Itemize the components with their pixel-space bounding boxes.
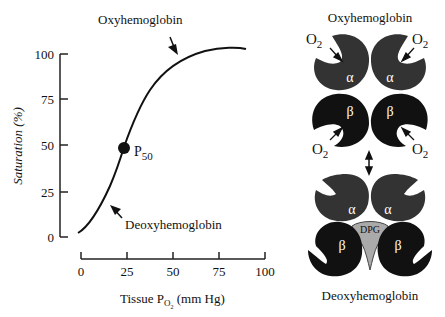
x-tick-label: 50 xyxy=(167,264,180,279)
oxygen-dissociation-chart: 100 75 50 25 0 Saturation (%) 0 25 50 75… xyxy=(10,12,275,310)
alpha-label: α xyxy=(348,202,356,217)
y-tick-label: 50 xyxy=(41,138,54,153)
alpha-label: α xyxy=(346,70,354,85)
deoxyhemoglobin-curve-label: Deoxyhemoglobin xyxy=(125,217,222,232)
y-tick-label: 75 xyxy=(41,92,54,107)
o2-label: O2 xyxy=(306,31,322,50)
beta-label: β xyxy=(338,238,345,253)
p50-label: P50 xyxy=(134,144,153,162)
oxy-beta-left-subunit xyxy=(312,94,369,147)
arrow-up-left-icon xyxy=(110,205,122,218)
beta-label: β xyxy=(346,104,353,119)
y-tick-label: 25 xyxy=(41,185,54,200)
x-tick-label: 25 xyxy=(121,264,134,279)
o2-label: O2 xyxy=(412,141,428,160)
saturation-curve xyxy=(78,48,246,233)
p50-marker xyxy=(118,142,130,154)
x-tick-label: 75 xyxy=(213,264,226,279)
o2-label: O2 xyxy=(312,141,328,160)
arrow-down-icon xyxy=(168,37,178,55)
y-ticks xyxy=(60,54,68,237)
beta-label: β xyxy=(386,104,393,119)
beta-label: β xyxy=(394,238,401,253)
oxyhemoglobin-title: Oxyhemoglobin xyxy=(328,10,413,25)
x-tick-label: 100 xyxy=(255,264,275,279)
oxy-beta-right-subunit xyxy=(371,94,428,147)
y-tick-label: 0 xyxy=(48,230,55,245)
y-tick-label: 100 xyxy=(35,47,55,62)
alpha-label: α xyxy=(384,202,392,217)
deoxy-beta-right-subunit xyxy=(378,222,432,277)
deoxy-beta-left-subunit xyxy=(308,222,362,277)
x-axis-label: Tissue PO2 (mm Hg) xyxy=(120,291,225,310)
oxyhemoglobin-curve-label: Oxyhemoglobin xyxy=(98,12,183,27)
deoxy-alpha-right-subunit xyxy=(371,174,425,221)
y-axis-label: Saturation (%) xyxy=(10,107,25,185)
o2-label: O2 xyxy=(412,31,428,50)
deoxy-alpha-left-subunit xyxy=(315,174,369,221)
x-ticks xyxy=(81,252,265,259)
dpg-label: DPG xyxy=(360,224,380,235)
equilibrium-double-arrow-icon xyxy=(366,152,372,174)
figure: 100 75 50 25 0 Saturation (%) 0 25 50 75… xyxy=(0,0,445,317)
x-tick-label: 0 xyxy=(78,264,85,279)
alpha-label: α xyxy=(386,70,394,85)
hemoglobin-diagram: Oxyhemoglobin α α β β O2 O2 O2 O2 xyxy=(306,10,432,303)
deoxyhemoglobin-title: Deoxyhemoglobin xyxy=(322,288,419,303)
